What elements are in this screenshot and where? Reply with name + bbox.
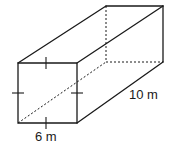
front-face xyxy=(18,63,77,123)
prism-diagram xyxy=(0,0,170,149)
side-length-label: 6 m xyxy=(35,130,57,143)
hidden-depth-edge xyxy=(18,62,106,123)
top-left-edge xyxy=(18,6,106,63)
top-right-edge xyxy=(77,6,163,63)
length-label: 10 m xyxy=(129,88,158,101)
